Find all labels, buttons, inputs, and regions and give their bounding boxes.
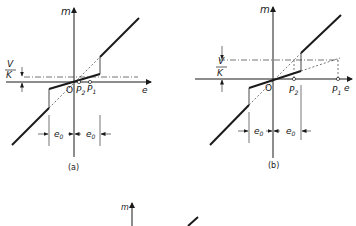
e0-label-right: e0 [286,126,296,137]
m-axis-label: m [121,203,129,212]
point-p1 [336,77,339,80]
e0-label-right: e0 [86,129,96,140]
k-label: K [6,70,13,80]
panel-b: m e O P2 P1 V K e0 e0 (b) [195,4,352,170]
figure-canvas: m e O P2 P1 V K e0 e0 (a) [0,0,356,226]
characteristic-curve [12,108,49,145]
p1-label: P1 [332,85,341,96]
e-axis-label: e [142,85,148,95]
characteristic-curve-upper [301,15,341,53]
p2-label: P2 [289,85,298,96]
characteristic-curve-upper [100,18,139,57]
panel-a: m e O P2 P1 V K e0 e0 (a) [5,6,151,172]
characteristic-curve [210,105,249,145]
e0-label-left: e0 [54,129,64,140]
p1-label: P1 [87,84,96,95]
caption-a: (a) [68,163,79,172]
m-axis-label: m [61,6,71,17]
v-label: V [7,59,14,69]
caption-b: (b) [268,161,279,170]
e0-label-left: e0 [254,126,264,137]
p2-label: P2 [76,85,85,96]
v-label: V [218,56,225,66]
e-axis-label: e [344,83,350,93]
k-label: K [217,68,224,78]
panel-c: m [121,203,198,226]
characteristic-curve-upper [188,217,198,226]
m-axis-label: m [260,4,270,15]
point-p2 [77,80,80,83]
point-p2 [292,77,295,80]
